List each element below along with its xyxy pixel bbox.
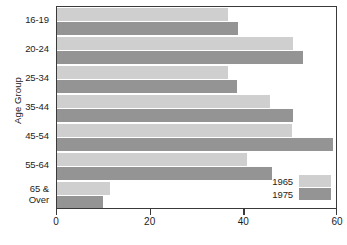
x-tick-label-40: 40 (238, 216, 249, 227)
plot-area: 1965 1975 (56, 6, 337, 209)
bar-1975-16-19 (57, 22, 238, 35)
category-label-line: 45-54 (25, 131, 49, 142)
x-tick-label-20: 20 (144, 216, 155, 227)
category-axis-labels: 16-1920-2425-3435-4445-5455-6465 &Over (0, 6, 52, 209)
bar-1975-55-64 (57, 167, 272, 180)
category-label-20-24: 20-24 (25, 44, 49, 55)
category-label-line: 20-24 (25, 44, 49, 55)
bar-1965-45-54 (57, 124, 292, 137)
bar-chart: Age Group 16-1920-2425-3435-4445-5455-64… (0, 0, 347, 245)
category-label-25-34: 25-34 (25, 73, 49, 84)
bar-1975-25-34 (57, 80, 237, 93)
x-tick-0 (56, 209, 57, 215)
bar-1975-65Over (57, 196, 103, 209)
category-label-65-Over: 65 &Over (29, 184, 49, 205)
category-label-line: 25-34 (25, 73, 49, 84)
bar-1975-45-54 (57, 138, 333, 151)
legend-item-1965: 1965 (272, 175, 331, 187)
category-label-45-54: 45-54 (25, 131, 49, 142)
x-tick-20 (150, 209, 151, 215)
category-label-55-64: 55-64 (25, 160, 49, 171)
category-label-line: 35-44 (25, 102, 49, 113)
x-tick-40 (243, 209, 244, 215)
bar-1975-20-24 (57, 51, 303, 64)
x-tick-60 (336, 209, 337, 215)
category-label-line: 65 & (29, 184, 49, 195)
legend-swatch-1975 (299, 188, 331, 200)
bar-1965-65Over (57, 182, 110, 195)
category-label-line: 16-19 (25, 15, 49, 26)
x-tick-label-0: 0 (53, 216, 59, 227)
category-label-35-44: 35-44 (25, 102, 49, 113)
legend-swatch-1965 (299, 175, 331, 187)
bar-1965-55-64 (57, 153, 247, 166)
bar-1975-35-44 (57, 109, 293, 122)
legend: 1965 1975 (272, 175, 331, 200)
legend-item-1975: 1975 (272, 188, 331, 200)
x-axis-ticks (56, 209, 337, 215)
x-axis-labels: 0204060 (56, 216, 337, 230)
bar-1965-25-34 (57, 66, 228, 79)
category-label-line: Over (29, 195, 49, 206)
bar-1965-16-19 (57, 8, 228, 21)
x-tick-label-60: 60 (331, 216, 342, 227)
category-label-line: 55-64 (25, 160, 49, 171)
bar-1965-20-24 (57, 37, 293, 50)
category-label-16-19: 16-19 (25, 15, 49, 26)
legend-label-1965: 1965 (272, 176, 293, 187)
bar-1965-35-44 (57, 95, 270, 108)
legend-label-1975: 1975 (272, 189, 293, 200)
